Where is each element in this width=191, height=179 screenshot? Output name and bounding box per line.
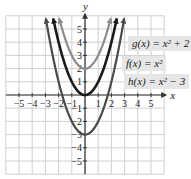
y-tick-label: 5 <box>77 24 82 35</box>
legend-h: h(x) = x² − 3 <box>124 74 189 89</box>
x-tick-label: 1 <box>96 98 101 109</box>
y-tick-label: −5 <box>71 156 82 167</box>
legend-g: g(x) = x² + 2 <box>128 36 191 51</box>
legend-f: f(x) = x² <box>122 56 166 71</box>
y-tick-label: 4 <box>77 37 82 48</box>
x-tick-label: 4 <box>135 98 140 109</box>
x-tick-label: 3 <box>122 98 127 109</box>
parabola-graph: xy−5−4−3−2−112345−5−4−3−2−112345 <box>0 0 191 179</box>
x-tick-label: −5 <box>14 98 25 109</box>
y-axis-label: y <box>82 0 88 12</box>
x-tick-label: −4 <box>27 98 38 109</box>
y-tick-label: 1 <box>77 76 82 87</box>
x-axis-label: x <box>169 89 175 101</box>
y-tick-label: −1 <box>71 103 82 114</box>
x-tick-label: 2 <box>109 98 114 109</box>
x-tick-label: −3 <box>40 98 51 109</box>
y-tick-label: 3 <box>77 50 82 61</box>
x-tick-label: −2 <box>53 98 64 109</box>
x-tick-label: 5 <box>149 98 154 109</box>
y-tick-label: −4 <box>71 142 82 153</box>
